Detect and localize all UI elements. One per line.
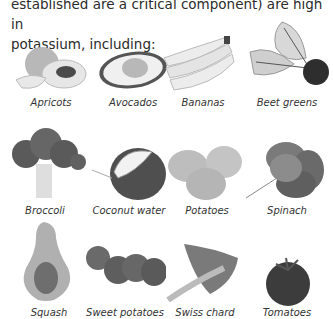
potatoes-image [166,140,248,204]
food-item-swiss-chard: Swiss chard [164,238,246,302]
food-label: Spinach [236,205,333,216]
bananas-image [162,30,244,94]
swiss-chard-image [164,238,246,302]
food-item-sweet-potatoes: Sweet potatoes [84,244,166,304]
broccoli-image [4,128,86,200]
food-item-apricots: Apricots [10,44,92,94]
coconut-water-image [88,142,170,202]
spinach-image [246,134,328,202]
sweet-potatoes-image [84,244,166,304]
tomatoes-image [246,252,328,308]
food-item-broccoli: Broccoli [4,128,86,200]
food-item-beet-greens: Beet greens [246,18,328,94]
apricots-image [10,44,92,94]
food-label: Tomatoes [236,307,333,318]
beet-greens-image [246,18,332,94]
food-item-bananas: Bananas [162,30,244,94]
food-item-squash: Squash [8,218,90,304]
squash-image [8,218,90,304]
food-item-coconut-water: Coconut water [88,142,170,202]
food-label: Beet greens [236,97,333,108]
food-item-spinach: Spinach [246,134,328,202]
food-item-potatoes: Potatoes [166,140,248,204]
food-item-tomatoes: Tomatoes [246,252,328,308]
